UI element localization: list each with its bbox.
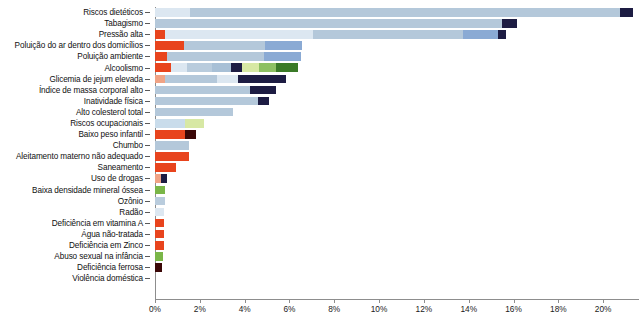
x-axis-tick-label: 14% [460,304,477,314]
y-axis-label: Baixo peso infantil [78,130,143,139]
stacked-bar[interactable] [155,130,196,139]
x-axis-line [155,299,639,300]
bar-segment[interactable] [155,241,164,250]
bar-row [155,18,639,29]
bar-segment[interactable] [155,41,184,50]
bar-segment[interactable] [155,263,162,272]
bar-segment[interactable] [264,52,301,61]
bar-segment[interactable] [155,8,190,17]
bar-segment[interactable] [155,186,165,195]
stacked-bar[interactable] [155,119,204,128]
bar-segment[interactable] [620,8,633,17]
y-axis-label: Abuso sexual na infância [54,252,143,261]
stacked-bar[interactable] [155,30,506,39]
bar-segment[interactable] [155,130,185,139]
bar-segment[interactable] [155,230,164,239]
stacked-bar[interactable] [155,197,165,206]
bar-segment[interactable] [155,163,176,172]
y-axis-label: Ozônio [118,197,143,206]
bar-row [155,273,639,284]
stacked-bar[interactable] [155,108,233,117]
stacked-bar[interactable] [155,152,189,161]
y-axis-label-row: Baixa densidade mineral óssea [0,185,150,196]
y-axis-label-row: Alcoolismo [0,62,150,73]
bar-segment[interactable] [155,219,164,228]
stacked-bar[interactable] [155,263,162,272]
bar-segment[interactable] [155,30,165,39]
bar-segment[interactable] [155,252,163,261]
bar-segment[interactable] [190,8,620,17]
bar-segment[interactable] [231,63,242,72]
y-axis-label: Radão [119,208,143,217]
bar-segment[interactable] [155,63,171,72]
stacked-bar[interactable] [155,63,298,72]
bar-segment[interactable] [258,97,269,106]
stacked-bar[interactable] [155,86,276,95]
y-axis-tick-mark [145,68,150,69]
stacked-bar[interactable] [155,219,164,228]
bar-segment[interactable] [250,86,276,95]
y-axis-label: Tabagismo [104,19,143,28]
x-axis-tick-label: 2% [194,304,206,314]
stacked-bar[interactable] [155,41,302,50]
bar-segment[interactable] [259,63,276,72]
stacked-bar[interactable] [155,174,167,183]
bar-segment[interactable] [165,75,217,84]
stacked-bar[interactable] [155,241,164,250]
bar-segment[interactable] [171,63,188,72]
stacked-bar[interactable] [155,252,163,261]
bar-segment[interactable] [313,30,463,39]
bar-segment[interactable] [167,52,263,61]
bar-segment[interactable] [155,208,164,217]
bar-segment[interactable] [161,174,168,183]
stacked-bar[interactable] [155,186,165,195]
stacked-bar[interactable] [155,75,286,84]
bar-segment[interactable] [155,86,250,95]
y-axis-label-row: Alto colesterol total [0,107,150,118]
y-axis-label: Glicemia de jejum elevada [49,75,143,84]
bar-segment[interactable] [265,41,302,50]
bar-segment[interactable] [165,30,313,39]
bar-segment[interactable] [155,141,189,150]
y-axis-label: Inatividade física [84,97,143,106]
stacked-bar[interactable] [155,8,633,17]
stacked-bar[interactable] [155,97,269,106]
bar-row [155,129,639,140]
bar-segment[interactable] [155,52,167,61]
stacked-bar[interactable] [155,230,164,239]
stacked-bar[interactable] [155,19,517,28]
bar-segment[interactable] [185,119,204,128]
bar-segment[interactable] [217,75,238,84]
x-axis-tick [424,299,425,303]
y-axis-tick-mark [145,101,150,102]
bar-segment[interactable] [276,63,298,72]
bar-row [155,207,639,218]
bar-segment[interactable] [155,75,165,84]
bar-segment[interactable] [242,63,259,72]
stacked-bar[interactable] [155,208,164,217]
bar-segment[interactable] [502,19,517,28]
bar-segment[interactable] [155,97,258,106]
bar-segment[interactable] [155,19,502,28]
bar-segment[interactable] [463,30,498,39]
bar-segment[interactable] [155,108,233,117]
bar-segment[interactable] [155,152,189,161]
bar-segment[interactable] [238,75,286,84]
stacked-bar[interactable] [155,52,301,61]
y-axis-label-row: Aleitamento materno não adequado [0,151,150,162]
bar-segment[interactable] [184,41,265,50]
stacked-bar[interactable] [155,163,176,172]
x-axis-tick [603,299,604,303]
y-axis-tick-mark [145,23,150,24]
bar-row [155,85,639,96]
x-axis-tick-label: 16% [505,304,522,314]
bar-segment[interactable] [155,119,185,128]
bar-segment[interactable] [212,63,231,72]
stacked-bar[interactable] [155,141,189,150]
bar-segment[interactable] [185,130,196,139]
y-axis-tick-mark [145,245,150,246]
bar-segment[interactable] [498,30,506,39]
bar-segment[interactable] [187,63,212,72]
y-axis-tick-mark [145,12,150,13]
bar-segment[interactable] [155,197,165,206]
